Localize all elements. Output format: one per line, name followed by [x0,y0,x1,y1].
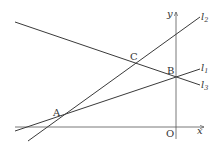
point-a-label: A [52,107,61,118]
diagram-canvas: y x O A C B l2 l1 l3 [0,0,221,150]
line-l2-label: l2 [201,11,208,24]
line-l1 [15,69,200,131]
x-axis-label: x [197,125,203,136]
origin-label: O [166,128,174,139]
line-l1-label: l1 [201,62,208,75]
y-axis-label: y [166,8,173,19]
point-b-label: B [167,65,174,76]
line-l3-label: l3 [201,79,208,92]
point-c-label: C [130,51,138,62]
